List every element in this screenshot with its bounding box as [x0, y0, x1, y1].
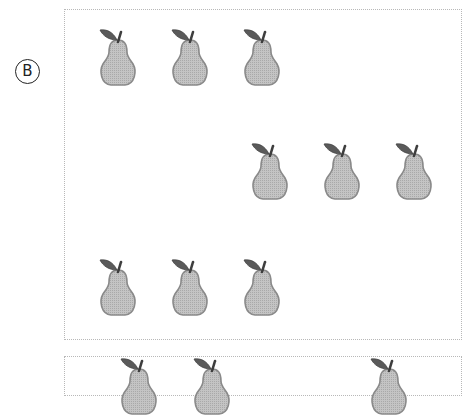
pear-icon	[238, 256, 286, 318]
option-letter: B	[22, 64, 32, 79]
pear-icon	[166, 26, 214, 88]
pear-icon	[318, 140, 366, 202]
pear-icon	[390, 140, 438, 202]
pear-icon	[94, 256, 142, 318]
pear-icon	[94, 26, 142, 88]
pear-icon	[188, 355, 236, 417]
pear-icon	[238, 26, 286, 88]
option-b-label[interactable]: B	[15, 59, 40, 84]
pear-icon	[246, 140, 294, 202]
pear-icon	[365, 355, 413, 417]
pear-icon	[115, 355, 163, 417]
pear-icon	[166, 256, 214, 318]
